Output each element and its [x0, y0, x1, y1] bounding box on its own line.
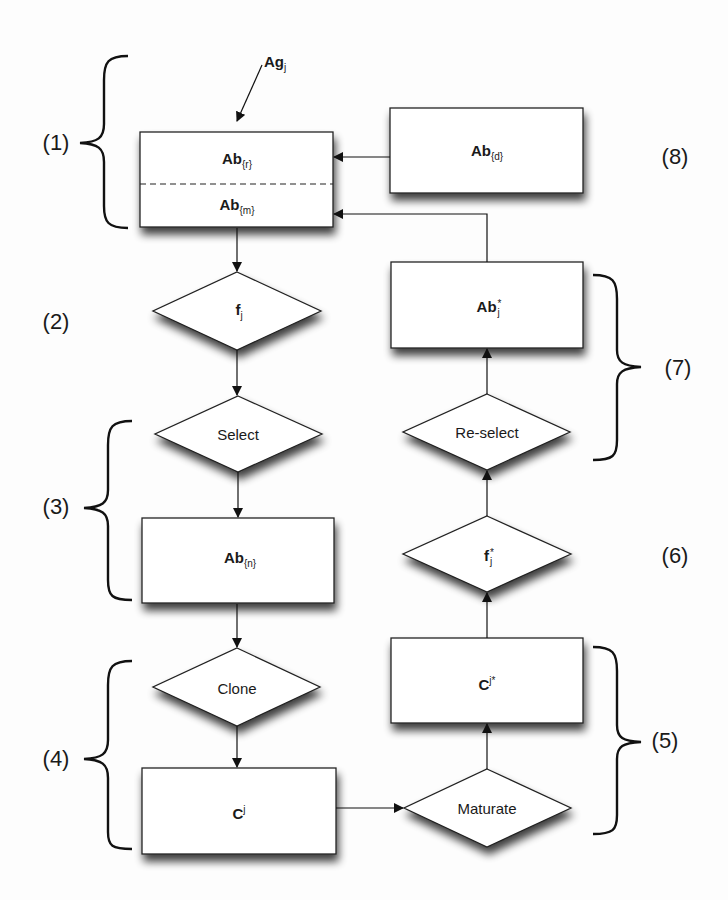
- step-5-label: (5): [652, 728, 679, 754]
- f-j-star-label: f*j: [484, 547, 494, 566]
- maturate-label: Maturate: [457, 800, 516, 817]
- brace-step-4: [84, 661, 132, 849]
- flowchart-canvas: [0, 0, 728, 900]
- c-j-label: Cj: [232, 804, 245, 822]
- brace-step-1: [80, 56, 128, 228]
- select-label: Select: [217, 426, 259, 443]
- brace-step-5: [593, 647, 641, 834]
- step-2-label: (2): [43, 309, 70, 335]
- ab-j-star-label: Ab*j: [477, 298, 502, 317]
- c-j-star-label: Cj*: [479, 675, 496, 693]
- reselect-label: Re-select: [455, 424, 518, 441]
- input-antigen-label: Agj: [264, 53, 286, 73]
- memory-bottom-label: Ab{m}: [219, 196, 254, 216]
- f-j-label: fj: [235, 301, 242, 321]
- ab-d-label: Ab{d}: [471, 142, 503, 162]
- brace-step-7: [593, 275, 641, 460]
- memory-top-label: Ab{r}: [222, 150, 252, 170]
- step-6-label: (6): [662, 543, 689, 569]
- brace-step-3: [84, 421, 132, 600]
- edge-input-memory: [237, 65, 262, 121]
- step-4-label: (4): [43, 746, 70, 772]
- step-7-label: (7): [665, 355, 692, 381]
- clone-label: Clone: [217, 680, 256, 697]
- step-3-label: (3): [43, 494, 70, 520]
- step-1-label: (1): [43, 130, 70, 156]
- edge-abjstar-memory: [334, 214, 487, 262]
- step-8-label: (8): [662, 144, 689, 170]
- ab-n-label: Ab{n}: [224, 549, 256, 569]
